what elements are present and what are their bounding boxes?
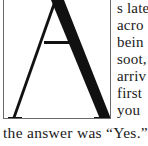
text-line: s late: [117, 0, 148, 17]
text-line: soot,: [117, 51, 147, 68]
text-line: first: [117, 85, 142, 102]
text-line-bottom: the answer was “Yes.”: [3, 124, 148, 141]
text-line: acro: [117, 17, 144, 34]
text-line: bein: [117, 34, 144, 51]
text-line: arriv: [117, 68, 146, 85]
drop-cap-box: A: [3, 0, 111, 119]
drop-cap-letter-a: [4, 0, 111, 119]
text-line: you: [117, 102, 140, 119]
